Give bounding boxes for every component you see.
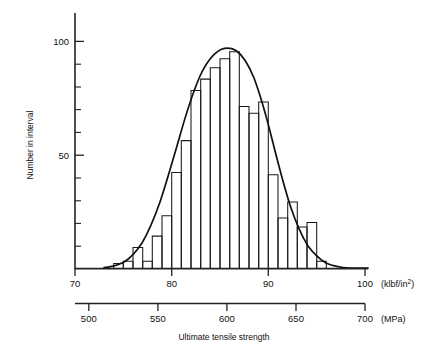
bottom-x-axis: 500 550 600 650 700 (MPa) Ultimate tensi… [75,304,406,343]
mpa-tick-label-600: 600 [219,313,235,324]
normal-distribution-curve [104,48,368,268]
bar-90 [268,175,278,268]
mpa-tick-label-700: 700 [357,313,373,324]
bar-76 [133,248,143,269]
top-axis-unit-label: (klbf/in2) [381,278,414,290]
bar-81 [181,141,191,268]
mpa-tick-label-550: 550 [150,313,166,324]
x-tick-label-100: 100 [357,278,373,289]
x-tick-label-70: 70 [70,278,81,289]
y-axis-title: Number in interval [25,110,35,179]
bar-93 [297,227,307,268]
mpa-tick-label-650: 650 [288,313,304,324]
bottom-axis-unit-label: (MPa) [381,314,406,324]
bar-83 [201,79,211,268]
top-axis-unit-close: ) [411,279,414,289]
bar-80 [172,172,182,268]
x-axis-title: Ultimate tensile strength [178,332,269,342]
bar-88 [249,113,259,268]
bar-77 [143,261,153,268]
bar-87 [239,106,249,268]
chart-svg: 100 50 Number in interval [0,0,438,352]
mpa-tick-label-500: 500 [81,313,97,324]
top-x-axis: 70 80 90 100 (klbf/in2) [70,269,414,289]
bar-78 [152,236,162,268]
y-tick-label-50: 50 [58,150,69,161]
bar-91 [278,218,288,268]
y-axis: 100 50 Number in interval [25,13,84,269]
bar-89 [259,102,269,268]
x-tick-label-90: 90 [263,278,274,289]
bar-84 [210,68,220,268]
bar-85 [220,59,230,268]
y-tick-label-100: 100 [53,36,69,47]
top-axis-unit-main: (klbf/in [381,279,408,289]
fitted-normal-curve [104,48,368,268]
bar-79 [162,216,172,268]
x-tick-label-80: 80 [166,278,177,289]
histogram-figure: 100 50 Number in interval [0,0,438,352]
bar-82 [191,91,201,269]
bar-86 [230,52,240,268]
